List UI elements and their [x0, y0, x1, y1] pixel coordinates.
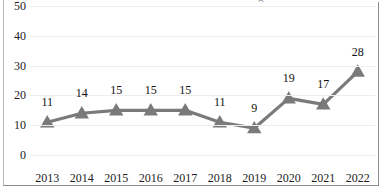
line-chart: g 01020304050201320142015201620172018201… — [0, 0, 389, 193]
data-point-label: 17 — [317, 78, 329, 90]
gridline — [30, 155, 375, 156]
y-axis-tick-label: 50 — [0, 0, 26, 12]
data-point-label: 15 — [110, 84, 122, 96]
data-point-label: 9 — [251, 102, 257, 114]
y-axis-tick-label: 10 — [0, 119, 26, 131]
chart-border-bottom — [3, 185, 379, 186]
plot-area: 0102030405020132014201520162017201820192… — [30, 6, 375, 155]
gridline — [30, 36, 375, 37]
clipped-title-fragment: g — [258, 0, 280, 2]
x-axis-tick-label: 2019 — [242, 172, 266, 184]
x-axis-tick-label: 2016 — [139, 172, 163, 184]
data-point-marker — [282, 91, 296, 103]
data-point-label: 28 — [352, 46, 364, 58]
x-axis-tick-label: 2020 — [277, 172, 301, 184]
x-axis-tick-label: 2021 — [311, 172, 335, 184]
y-axis-tick-label: 30 — [0, 60, 26, 72]
x-axis-tick-label: 2018 — [208, 172, 232, 184]
y-axis-tick-label: 20 — [0, 89, 26, 101]
gridline — [30, 66, 375, 67]
gridline — [30, 6, 375, 7]
x-axis-tick-label: 2013 — [35, 172, 59, 184]
gridline — [30, 125, 375, 126]
x-axis-tick-label: 2017 — [173, 172, 197, 184]
data-point-label: 11 — [214, 96, 226, 108]
data-point-label: 19 — [283, 72, 295, 84]
x-axis-tick-label: 2022 — [346, 172, 370, 184]
y-axis-tick-label: 40 — [0, 30, 26, 42]
chart-border-right — [378, 2, 379, 186]
series-polyline — [47, 72, 358, 129]
x-axis-tick-label: 2014 — [70, 172, 94, 184]
data-point-label: 14 — [76, 87, 88, 99]
data-point-label: 15 — [145, 84, 157, 96]
y-axis-tick-label: 0 — [0, 149, 26, 161]
x-axis-tick-label: 2015 — [104, 172, 128, 184]
data-point-label: 11 — [41, 96, 53, 108]
data-point-label: 15 — [179, 84, 191, 96]
